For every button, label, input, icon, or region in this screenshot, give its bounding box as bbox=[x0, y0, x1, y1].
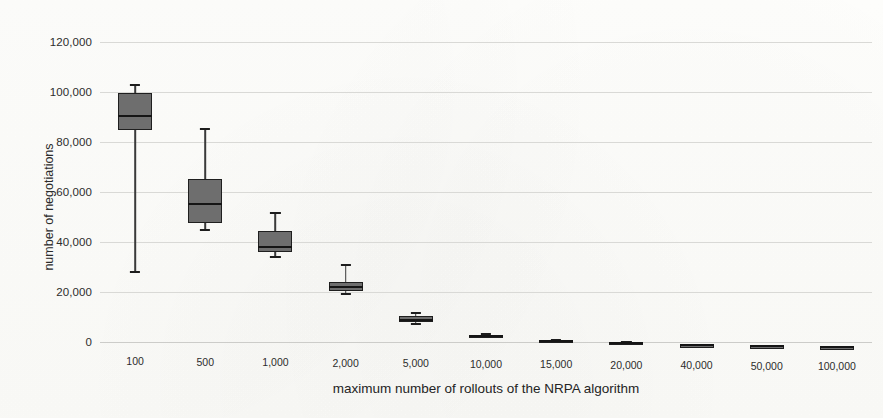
boxplot-box-40000 bbox=[680, 46, 714, 346]
x-axis-tick-label: 15,000 bbox=[540, 358, 572, 370]
boxplot-box-50000 bbox=[750, 47, 784, 347]
whisker-cap-lower bbox=[270, 256, 280, 258]
boxplot-box-15000 bbox=[539, 45, 573, 345]
whisker-cap-lower bbox=[341, 293, 351, 295]
y-axis-tick-label: 100,000 bbox=[6, 86, 92, 98]
box-iqr bbox=[258, 231, 292, 252]
x-axis-tick-label: 100,000 bbox=[818, 360, 856, 372]
y-axis-tick-label: 60,000 bbox=[6, 186, 92, 198]
y-axis-tick-labels: 020,00040,00060,00080,000100,000120,000 bbox=[0, 42, 92, 342]
x-axis-tick-label: 500 bbox=[197, 356, 215, 368]
median-line bbox=[188, 203, 222, 205]
boxplot-box-1000 bbox=[258, 43, 292, 343]
plot-area bbox=[100, 42, 872, 342]
median-line bbox=[118, 115, 152, 117]
boxplot-box-100 bbox=[118, 42, 152, 342]
whisker-cap-lower bbox=[411, 323, 421, 325]
median-line bbox=[399, 319, 433, 321]
y-axis-tick-label: 120,000 bbox=[6, 36, 92, 48]
y-axis-tick-label: 0 bbox=[6, 336, 92, 348]
whisker-cap-upper bbox=[411, 312, 421, 314]
median-line bbox=[469, 335, 503, 337]
boxplot-box-2000 bbox=[329, 44, 363, 344]
x-axis-tick-label: 1,000 bbox=[262, 356, 288, 368]
median-line bbox=[258, 246, 292, 248]
x-axis-tick-label: 2,000 bbox=[332, 357, 358, 369]
whisker-cap-upper bbox=[200, 128, 210, 130]
x-axis-title: maximum number of rollouts of the NRPA a… bbox=[100, 381, 872, 396]
median-line bbox=[680, 344, 714, 346]
x-axis-tick-label: 100 bbox=[126, 355, 144, 367]
whisker-cap-upper bbox=[130, 84, 140, 86]
x-axis-tick-label: 10,000 bbox=[470, 358, 502, 370]
boxplot-box-5000 bbox=[399, 44, 433, 344]
boxplot-box-500 bbox=[188, 43, 222, 343]
whisker-cap-lower bbox=[130, 271, 140, 273]
y-axis-tick-label: 80,000 bbox=[6, 136, 92, 148]
x-axis-tick-label: 50,000 bbox=[751, 360, 783, 372]
y-axis-tick-label: 40,000 bbox=[6, 236, 92, 248]
x-axis-tick-label: 20,000 bbox=[610, 359, 642, 371]
median-line bbox=[539, 340, 573, 342]
whisker-cap-lower bbox=[200, 229, 210, 231]
boxplot-box-10000 bbox=[469, 45, 503, 345]
median-line bbox=[609, 342, 643, 344]
boxplot-box-20000 bbox=[609, 46, 643, 346]
median-line bbox=[329, 286, 363, 288]
box-iqr bbox=[118, 93, 152, 129]
median-line bbox=[820, 346, 854, 348]
x-axis-tick-label: 5,000 bbox=[403, 357, 429, 369]
whisker-cap-upper bbox=[270, 212, 280, 214]
x-axis-tick-label: 40,000 bbox=[680, 359, 712, 371]
y-axis-tick-label: 20,000 bbox=[6, 286, 92, 298]
boxplot-box-100000 bbox=[820, 48, 854, 348]
boxplot-chart: number of negotiations 020,00040,00060,0… bbox=[0, 0, 883, 418]
box-iqr bbox=[188, 179, 222, 223]
whisker-cap-upper bbox=[341, 264, 351, 266]
median-line bbox=[750, 345, 784, 347]
